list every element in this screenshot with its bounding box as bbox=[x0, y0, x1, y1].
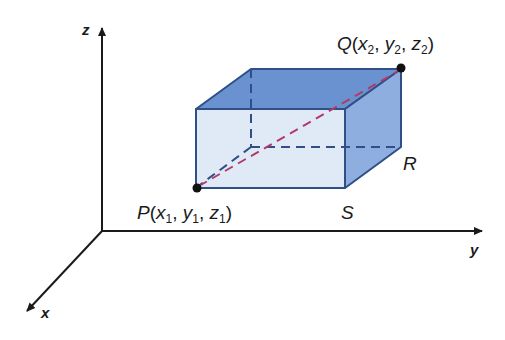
point-r-label: R bbox=[403, 153, 417, 174]
point-q bbox=[397, 64, 406, 73]
x-axis-label: x bbox=[40, 304, 50, 321]
z-axis-label: z bbox=[81, 21, 90, 38]
point-p bbox=[193, 184, 202, 193]
point-s-label: S bbox=[341, 202, 354, 223]
point-q-label: Q(x2, y2, z2) bbox=[337, 33, 434, 57]
x-axis bbox=[27, 231, 102, 311]
box-front-face bbox=[196, 109, 345, 188]
point-p-label: P(x1, y1, z1) bbox=[137, 202, 232, 226]
y-axis-label: y bbox=[469, 241, 479, 258]
coordinate-diagram: z y x Q(x2, y2, z2) P(x1, y1, z1) R S bbox=[0, 0, 505, 340]
